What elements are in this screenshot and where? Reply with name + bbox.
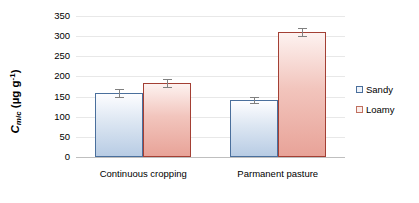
- legend-item-loamy[interactable]: Loamy: [356, 104, 395, 115]
- y-axis-tick-label: 250: [36, 52, 70, 62]
- y-axis-title-text: Cmic (µg g-1): [8, 70, 23, 134]
- y-axis-tick-label: 200: [36, 72, 70, 82]
- error-bar-line: [302, 28, 303, 36]
- error-bar-cap-upper: [163, 79, 172, 80]
- y-axis-unit-close: ): [9, 70, 21, 74]
- error-bar-cap-lower: [163, 87, 172, 88]
- error-bar-cap-upper: [250, 97, 259, 98]
- y-axis-subscript: mic: [14, 111, 23, 125]
- y-axis-title: Cmic (µg g-1): [0, 0, 30, 203]
- y-axis-symbol: C: [9, 125, 21, 133]
- y-axis-unit-open: (µg g: [9, 80, 21, 111]
- error-bar-line: [167, 79, 168, 87]
- x-axis-category-label: Continuous cropping: [100, 168, 187, 179]
- y-axis-tick-label: 150: [36, 92, 70, 102]
- y-axis-tick-label: 50: [36, 132, 70, 142]
- y-axis-tick-label: 100: [36, 112, 70, 122]
- legend-swatch-icon: [356, 106, 363, 113]
- plot-area: [76, 16, 345, 157]
- error-bar-cap-lower: [250, 103, 259, 104]
- bar-sandy-1: [230, 100, 278, 157]
- gridline: [76, 16, 345, 17]
- bar-chart: Cmic (µg g-1) 050100150200250300350 Cont…: [0, 0, 419, 203]
- legend: SandyLoamy: [356, 84, 395, 115]
- bar-loamy-0: [143, 83, 191, 157]
- legend-label: Loamy: [366, 104, 395, 115]
- y-axis-tick-label: 300: [36, 31, 70, 41]
- y-axis-unit-exponent: -1: [8, 73, 17, 80]
- legend-swatch-icon: [356, 86, 363, 93]
- x-axis-line: [76, 157, 345, 158]
- x-axis-category-label: Parmanent pasture: [237, 168, 318, 179]
- error-bar-cap-upper: [115, 89, 124, 90]
- error-bar-cap-lower: [298, 36, 307, 37]
- legend-label: Sandy: [366, 84, 393, 95]
- y-axis-tick-label: 0: [36, 152, 70, 162]
- y-axis-tick-label: 350: [36, 11, 70, 21]
- error-bar-cap-upper: [298, 28, 307, 29]
- bar-loamy-1: [278, 32, 326, 157]
- y-axis-tick-labels: 050100150200250300350: [36, 16, 70, 157]
- error-bar-line: [119, 89, 120, 97]
- error-bar-cap-lower: [115, 97, 124, 98]
- legend-item-sandy[interactable]: Sandy: [356, 84, 395, 95]
- bar-sandy-0: [95, 93, 143, 157]
